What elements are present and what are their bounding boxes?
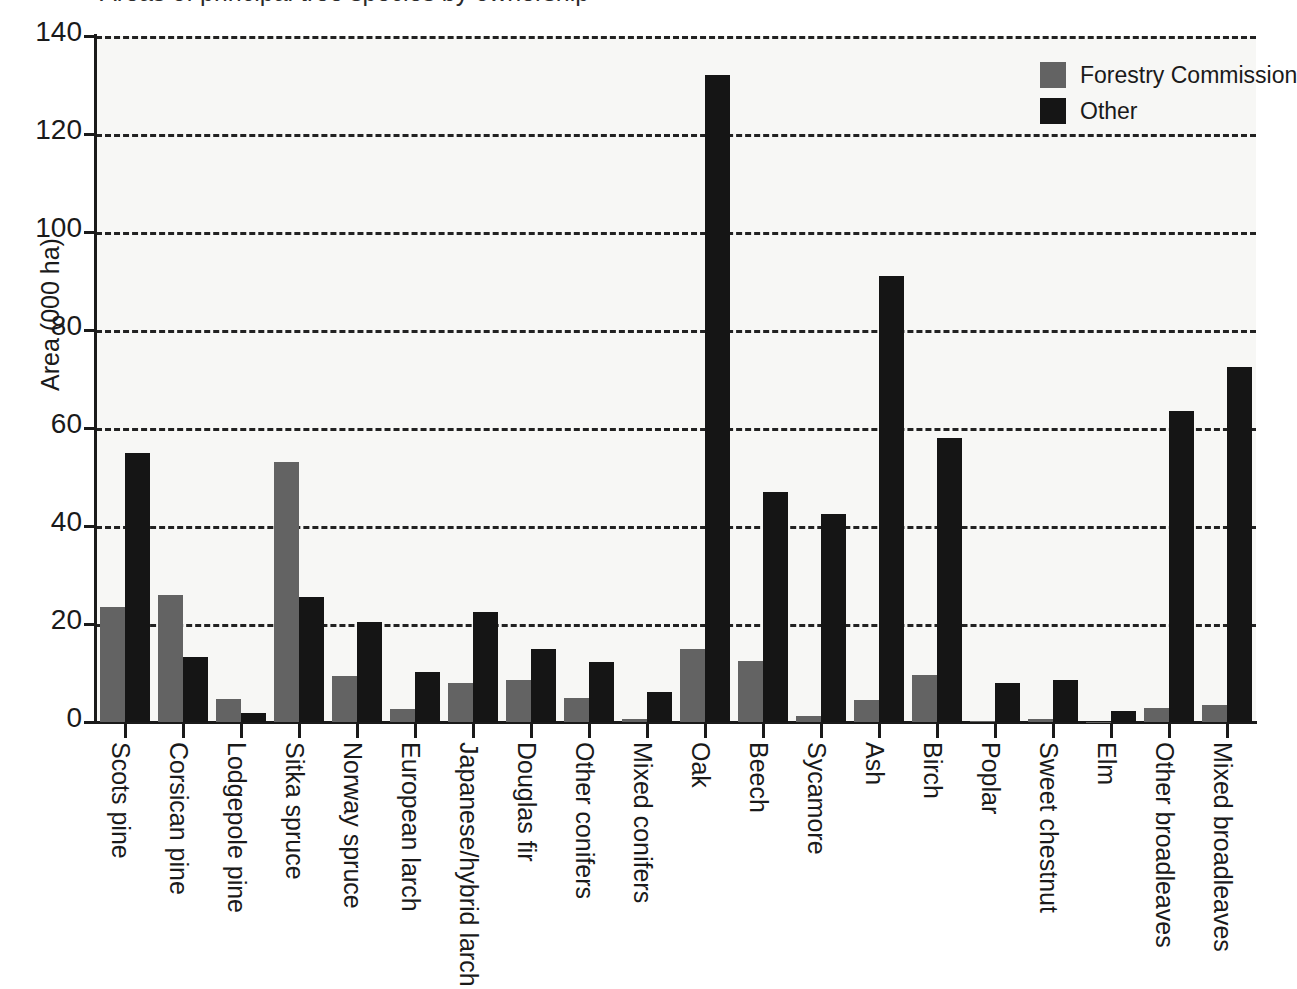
y-axis-tick-label: 140 xyxy=(0,18,82,46)
x-axis-tick-label: Sweet chestnut xyxy=(1034,742,1063,913)
bar-group xyxy=(1024,36,1082,722)
x-axis-tick-label: Oak xyxy=(686,742,715,788)
x-axis-tick-mark xyxy=(530,724,533,738)
bar-forestry-commission xyxy=(1144,708,1169,722)
bar-forestry-commission xyxy=(680,649,705,723)
bar-forestry-commission xyxy=(332,676,357,722)
bar-forestry-commission xyxy=(796,716,821,722)
bar-forestry-commission xyxy=(564,698,589,723)
x-axis-tick-mark xyxy=(1168,724,1171,738)
legend-item: Forestry Commission xyxy=(1040,60,1290,90)
x-axis-tick-label: Other broadleaves xyxy=(1150,742,1179,948)
bar-group xyxy=(212,36,270,722)
bar-other xyxy=(1169,411,1194,722)
bar-other xyxy=(879,276,904,722)
bar-other xyxy=(589,662,614,722)
x-axis-tick-label: Beech xyxy=(744,742,773,813)
x-axis-tick-label: Norway spruce xyxy=(338,742,367,909)
x-axis-tick-mark xyxy=(820,724,823,738)
bar-other xyxy=(125,453,150,723)
bar-other xyxy=(763,492,788,722)
bar-group xyxy=(908,36,966,722)
x-axis-tick-label: Elm xyxy=(1092,742,1121,785)
bar-group xyxy=(676,36,734,722)
bar-group xyxy=(734,36,792,722)
bar-forestry-commission xyxy=(506,680,531,722)
bar-forestry-commission xyxy=(390,709,415,722)
bar-other xyxy=(1227,367,1252,722)
bar-forestry-commission xyxy=(854,700,879,722)
x-axis-tick-label: Mixed conifers xyxy=(628,742,657,903)
y-axis-tick-label: 60 xyxy=(0,410,82,438)
legend-item: Other xyxy=(1040,96,1290,126)
bar-other xyxy=(241,713,266,722)
bar-group xyxy=(1140,36,1198,722)
bar-forestry-commission xyxy=(100,607,125,722)
bar-other xyxy=(357,622,382,722)
bar-other xyxy=(183,657,208,722)
bar-other xyxy=(531,649,556,723)
legend-item-label: Other xyxy=(1080,98,1138,125)
y-axis-tick-label: 0 xyxy=(0,704,82,732)
x-axis-tick-mark xyxy=(1110,724,1113,738)
bar-group xyxy=(618,36,676,722)
x-axis-tick-mark xyxy=(298,724,301,738)
bar-forestry-commission xyxy=(738,661,763,722)
bar-forestry-commission xyxy=(622,719,647,722)
bar-other xyxy=(1053,680,1078,722)
x-axis-tick-label: Japanese/hybrid larch xyxy=(454,742,483,987)
x-axis-tick-mark xyxy=(1226,724,1229,738)
chart-title-cropped: Areas of principal tree species by owner… xyxy=(0,0,1290,14)
bar-forestry-commission xyxy=(448,683,473,722)
x-axis-tick-mark xyxy=(124,724,127,738)
bar-group xyxy=(328,36,386,722)
x-axis-tick-label: Mixed broadleaves xyxy=(1208,742,1237,952)
y-axis-tick-label: 80 xyxy=(0,312,82,340)
bar-other xyxy=(821,514,846,722)
bar-group xyxy=(966,36,1024,722)
bar-forestry-commission xyxy=(1028,719,1053,722)
bar-other xyxy=(647,692,672,722)
x-axis-tick-mark xyxy=(878,724,881,738)
x-axis-tick-mark xyxy=(414,724,417,738)
bar-other xyxy=(937,438,962,722)
x-axis-tick-mark xyxy=(1052,724,1055,738)
legend: Forestry CommissionOther xyxy=(1040,60,1290,132)
x-axis-tick-label: Sycamore xyxy=(802,742,831,855)
x-axis-tick-label: Poplar xyxy=(976,742,1005,814)
x-axis-tick-label: Ash xyxy=(860,742,889,785)
bar-group xyxy=(270,36,328,722)
legend-item-label: Forestry Commission xyxy=(1080,62,1297,89)
y-axis-tick-label: 120 xyxy=(0,116,82,144)
x-axis-tick-label: Birch xyxy=(918,742,947,799)
bar-other xyxy=(415,672,440,722)
y-axis-tick-label: 100 xyxy=(0,214,82,242)
bar-group xyxy=(386,36,444,722)
bar-group xyxy=(1198,36,1256,722)
bar-forestry-commission xyxy=(970,721,995,722)
y-axis-tick-label: 20 xyxy=(0,606,82,634)
bar-forestry-commission xyxy=(158,595,183,722)
bars-layer xyxy=(96,36,1256,722)
x-axis-tick-mark xyxy=(762,724,765,738)
bar-group xyxy=(154,36,212,722)
page-title: Areas of principal tree species by owner… xyxy=(100,0,589,7)
x-axis-tick-mark xyxy=(588,724,591,738)
bar-group xyxy=(560,36,618,722)
x-axis-tick-label: Other conifers xyxy=(570,742,599,899)
x-axis-tick-mark xyxy=(936,724,939,738)
bar-other xyxy=(1111,711,1136,722)
bar-forestry-commission xyxy=(912,675,937,722)
bar-group xyxy=(96,36,154,722)
x-axis-tick-mark xyxy=(472,724,475,738)
x-axis-tick-label: European larch xyxy=(396,742,425,912)
x-axis-tick-mark xyxy=(994,724,997,738)
legend-swatch-other xyxy=(1040,98,1066,124)
x-axis-tick-label: Sitka spruce xyxy=(280,742,309,880)
bar-forestry-commission xyxy=(274,462,299,722)
bar-other xyxy=(473,612,498,722)
x-axis-tick-mark xyxy=(240,724,243,738)
x-axis-tick-mark xyxy=(182,724,185,738)
bar-forestry-commission xyxy=(216,699,241,722)
x-axis-tick-mark xyxy=(704,724,707,738)
